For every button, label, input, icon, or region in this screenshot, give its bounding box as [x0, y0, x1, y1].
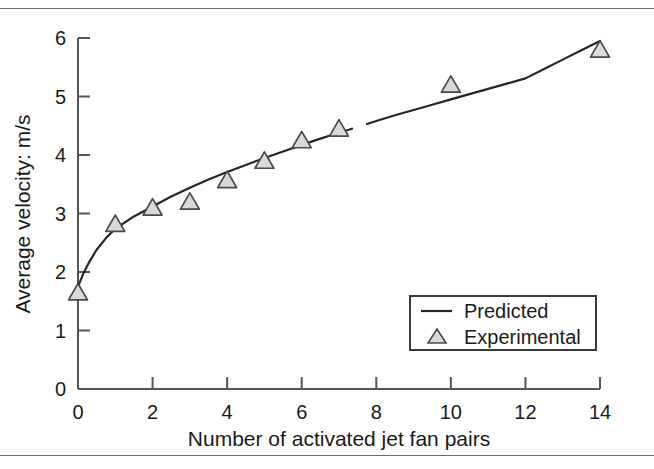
y-tick-group: 0123456	[55, 27, 90, 400]
x-axis-title: Number of activated jet fan pairs	[188, 427, 490, 450]
y-tick-label: 2	[55, 261, 66, 283]
x-tick-label: 8	[371, 401, 382, 423]
line-chart: 0123456 02468101214 Number of activated …	[0, 0, 654, 469]
x-tick-label: 14	[589, 401, 611, 423]
y-tick-label: 1	[55, 320, 66, 342]
experimental-marker	[180, 193, 199, 209]
x-tick-label: 0	[72, 401, 83, 423]
x-tick-label: 4	[222, 401, 233, 423]
legend: Predicted Experimental	[410, 296, 596, 350]
x-tick-label: 6	[296, 401, 307, 423]
predicted-curve-segment-1	[78, 129, 352, 287]
x-tick-label: 12	[514, 401, 536, 423]
experimental-marker	[441, 76, 460, 92]
legend-label-experimental: Experimental	[464, 326, 581, 348]
y-tick-label: 0	[55, 378, 66, 400]
x-tick-label: 2	[147, 401, 158, 423]
x-tick-group: 02468101214	[72, 377, 611, 423]
experimental-marker	[143, 199, 162, 215]
figure-container: 0123456 02468101214 Number of activated …	[0, 0, 654, 469]
legend-label-predicted: Predicted	[464, 300, 549, 322]
x-tick-label: 10	[440, 401, 462, 423]
y-tick-label: 5	[55, 86, 66, 108]
series-predicted	[78, 41, 600, 287]
y-tick-label: 6	[55, 27, 66, 49]
experimental-marker	[292, 131, 311, 147]
y-axis-title: Average velocity: m/s	[11, 114, 34, 313]
y-tick-label: 3	[55, 203, 66, 225]
experimental-marker	[69, 283, 88, 299]
predicted-curve-segment-2	[367, 41, 600, 124]
experimental-marker	[330, 120, 349, 136]
series-experimental	[69, 41, 610, 300]
y-tick-label: 4	[55, 144, 66, 166]
